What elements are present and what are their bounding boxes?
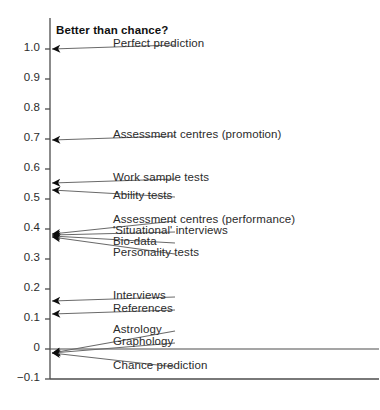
y-tick-label: 1.0 bbox=[6, 41, 40, 53]
y-tick-label: 0.4 bbox=[6, 221, 40, 233]
data-point-label: Ability tests bbox=[113, 189, 172, 201]
leader-line-layer bbox=[52, 45, 175, 367]
y-tick-label: 0 bbox=[6, 341, 40, 353]
y-tick-label: 0.8 bbox=[6, 101, 40, 113]
data-point-label: Personality tests bbox=[113, 246, 199, 258]
data-point-label: References bbox=[113, 302, 173, 314]
y-tick-label: 0.5 bbox=[6, 191, 40, 203]
y-tick-label: 0.6 bbox=[6, 161, 40, 173]
chart-container: 1.00.90.80.70.60.50.40.30.20.10−0.1 Bett… bbox=[0, 0, 380, 410]
data-point-label: Perfect prediction bbox=[113, 37, 204, 49]
y-tick-label: 0.1 bbox=[6, 311, 40, 323]
data-point-label: Interviews bbox=[113, 289, 166, 301]
chart-plot-svg bbox=[0, 0, 380, 410]
data-point-label: Work sample tests bbox=[113, 171, 209, 183]
data-point-label: Assessment centres (promotion) bbox=[113, 128, 282, 140]
y-tick-label: 0.3 bbox=[6, 251, 40, 263]
data-point-label: Chance prediction bbox=[113, 359, 207, 371]
y-tick-label: 0.7 bbox=[6, 131, 40, 143]
chart-title: Better than chance? bbox=[56, 24, 168, 36]
y-tick-label: 0.2 bbox=[6, 281, 40, 293]
axis-layer bbox=[45, 18, 379, 379]
y-tick-label: 0.9 bbox=[6, 71, 40, 83]
data-point-label: Astrology bbox=[113, 323, 162, 335]
data-point-label: Graphology bbox=[113, 335, 173, 347]
y-tick-label: −0.1 bbox=[6, 371, 40, 383]
